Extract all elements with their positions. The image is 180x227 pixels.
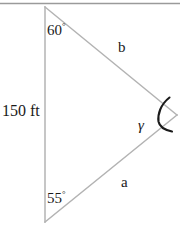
angle-gamma-arc [158, 98, 172, 132]
label-angle-bottom: 55° [47, 190, 66, 206]
geometry-figure: 150 ft 60° 55° b a γ [0, 0, 180, 227]
label-side-c: 150 ft [2, 103, 40, 119]
label-side-b: b [118, 40, 126, 55]
angle-top-value: 60 [47, 22, 62, 38]
label-angle-gamma: γ [138, 118, 144, 133]
degree-symbol-top: ° [62, 21, 66, 31]
angle-bottom-value: 55 [47, 190, 62, 206]
label-angle-top: 60° [47, 22, 66, 38]
label-side-a: a [121, 175, 128, 190]
degree-symbol-bottom: ° [62, 189, 66, 199]
